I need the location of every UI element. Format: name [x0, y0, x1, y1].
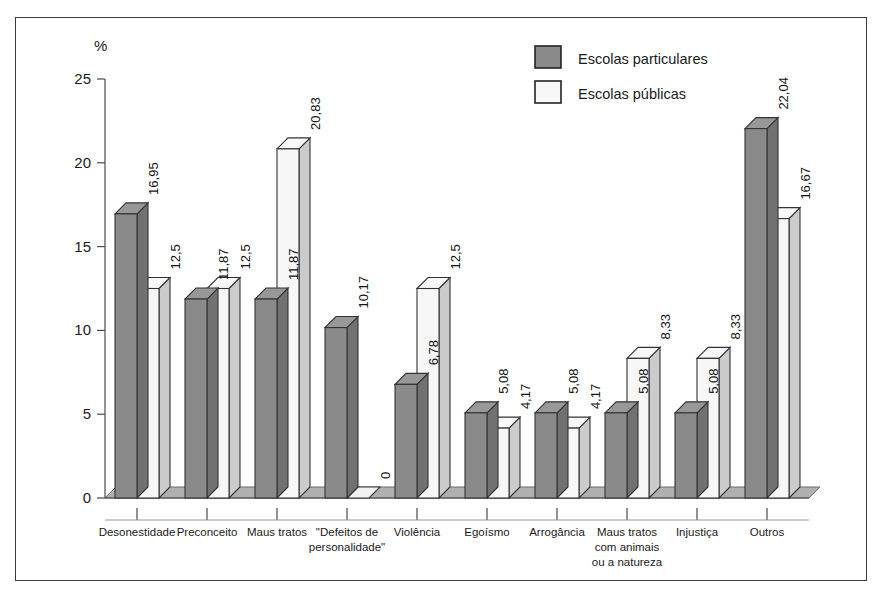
bar-5-0-side	[487, 402, 498, 498]
bar-9-1-side	[789, 208, 800, 498]
bar-value-label: 11,87	[216, 248, 231, 280]
bar-value-label: 11,87	[286, 248, 301, 280]
bar-value-label: 5,08	[636, 369, 651, 394]
bar-value-label: 22,04	[776, 77, 791, 110]
bar-2-0-side	[277, 288, 288, 498]
x-category-label: Injustiça	[676, 526, 719, 538]
bar-value-label: 0	[378, 472, 393, 479]
bar-value-label: 12,5	[238, 244, 253, 269]
bar-4-0-front	[395, 384, 417, 498]
bar-value-label: 4,17	[588, 384, 603, 409]
bar-value-label: 5,08	[566, 369, 581, 394]
y-tick-label: 0	[83, 489, 91, 506]
bar-5-0-front	[465, 413, 487, 498]
x-category-label: Preconceito	[177, 526, 238, 538]
bar-value-label: 6,78	[426, 340, 441, 365]
bar-8-0-side	[697, 402, 708, 498]
bar-6-0-front	[535, 413, 557, 498]
bar-7-0-front	[605, 413, 627, 498]
bar-6-1-side	[579, 417, 590, 498]
bar-value-label: 5,08	[706, 369, 721, 394]
bar-1-0-side	[207, 288, 218, 498]
bar-0-1-side	[159, 278, 170, 499]
bar-3-0-front	[325, 328, 347, 498]
bar-value-label: 8,33	[658, 314, 673, 339]
chart-legend: Escolas particularesEscolas públicas	[535, 46, 708, 103]
bar-3-0-side	[347, 317, 358, 498]
chart-axis-unit: %	[94, 37, 107, 54]
bar-2-0-front	[255, 299, 277, 498]
bar-9-0-front	[745, 129, 767, 498]
bar-value-label: 12,5	[448, 244, 463, 269]
legend-swatch-0	[535, 46, 561, 68]
bar-4-0-side	[417, 373, 428, 498]
chart-page: 0510152025 16,9512,511,8712,511,8720,831…	[0, 0, 882, 595]
chart-frame: 0510152025 16,9512,511,8712,511,8720,831…	[15, 17, 867, 581]
bar-1-1-side	[229, 278, 240, 499]
bar-chart-svg: 0510152025 16,9512,511,8712,511,8720,831…	[16, 18, 868, 582]
y-tick-label: 15	[74, 238, 91, 255]
legend-label-1: Escolas públicas	[578, 86, 686, 102]
bar-value-label: 5,08	[496, 369, 511, 394]
y-tick-label: 5	[83, 405, 91, 422]
x-category-label: "Defeitos de	[316, 526, 378, 538]
legend-label-0: Escolas particulares	[578, 51, 708, 67]
bar-0-0-front	[115, 214, 137, 498]
bar-9-0-side	[767, 118, 778, 498]
bar-4-1-side	[439, 278, 450, 499]
bar-7-0-side	[627, 402, 638, 498]
bar-value-label: 20,83	[308, 97, 323, 130]
y-tick-label: 20	[74, 154, 91, 171]
y-tick-label: 10	[74, 321, 91, 338]
bar-8-0-front	[675, 413, 697, 498]
x-category-label: com animais	[595, 541, 660, 553]
bar-1-0-front	[185, 299, 207, 498]
bar-value-label: 16,95	[146, 162, 161, 195]
legend-swatch-1	[535, 81, 561, 103]
bar-value-label: 12,5	[168, 244, 183, 269]
chart-bars	[115, 118, 800, 498]
x-category-label: Egoísmo	[464, 526, 509, 538]
x-category-label: Maus tratos	[597, 526, 657, 538]
x-category-label: Violência	[394, 526, 441, 538]
y-tick-label: 25	[74, 70, 91, 87]
bar-0-0-side	[137, 203, 148, 498]
bar-value-label: 8,33	[728, 314, 743, 339]
x-category-label: Outros	[750, 526, 785, 538]
y-axis-unit-label: %	[94, 37, 107, 54]
bar-5-1-side	[509, 417, 520, 498]
bar-value-label: 4,17	[518, 384, 533, 409]
x-category-label: Maus tratos	[247, 526, 307, 538]
bar-value-label: 16,67	[798, 167, 813, 200]
x-category-label: Desonestidade	[99, 526, 176, 538]
bar-6-0-side	[557, 402, 568, 498]
x-category-label: Arrogância	[529, 526, 585, 538]
x-category-label: personalidade"	[309, 541, 385, 553]
x-category-label: ou a natureza	[592, 556, 663, 568]
chart-category-labels: DesonestidadePreconceitoMaus tratos"Defe…	[99, 526, 785, 568]
bar-2-1-side	[299, 138, 310, 498]
bar-value-label: 10,17	[356, 276, 371, 309]
